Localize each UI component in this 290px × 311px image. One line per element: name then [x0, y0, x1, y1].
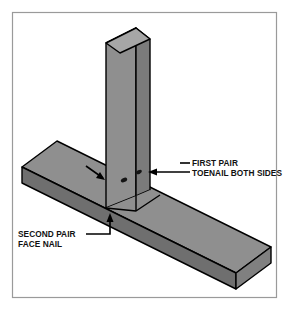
- first-pair-label-line2: TOENAIL BOTH SIDES: [192, 168, 282, 178]
- second-pair-label-line1: SECOND PAIR: [18, 229, 76, 239]
- first-pair-label-line1: FIRST PAIR: [192, 158, 238, 168]
- figure-container: FIRST PAIR TOENAIL BOTH SIDES SECOND PAI…: [0, 0, 290, 311]
- framing-detail-illustration: FIRST PAIR TOENAIL BOTH SIDES SECOND PAI…: [0, 0, 290, 311]
- second-pair-label-line2: FACE NAIL: [18, 239, 62, 249]
